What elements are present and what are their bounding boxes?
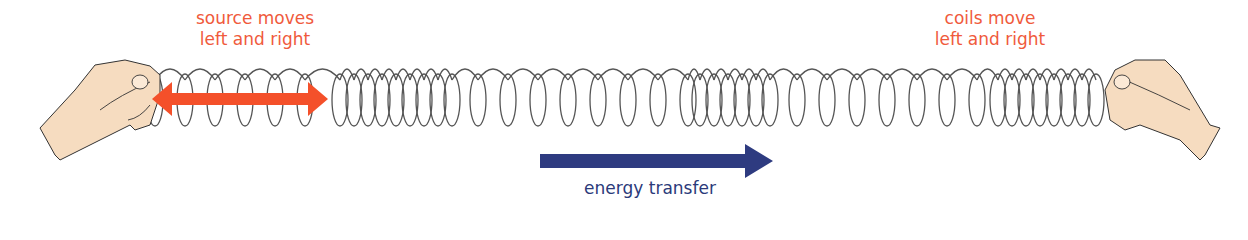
energy-transfer-arrow — [540, 144, 773, 178]
left-hand — [40, 60, 160, 160]
right-hand — [1105, 60, 1220, 160]
